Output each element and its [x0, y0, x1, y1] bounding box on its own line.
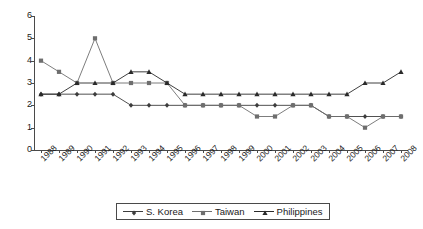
- x-tick-label: 1994: [147, 144, 167, 164]
- legend-item-taiwan[interactable]: Taiwan: [192, 206, 245, 217]
- diamond-marker-icon: [255, 103, 259, 108]
- diamond-marker-icon: [132, 210, 136, 215]
- x-tick-label: 1997: [201, 144, 221, 164]
- series-line: [41, 94, 401, 116]
- diamond-marker-icon: [345, 114, 349, 119]
- triangle-marker-icon: [398, 69, 403, 74]
- diamond-marker-icon: [39, 92, 43, 97]
- triangle-marker-icon: [74, 80, 79, 85]
- diamond-marker-icon: [57, 92, 61, 97]
- square-marker-icon: [199, 209, 207, 217]
- x-tick-label: 2003: [309, 144, 329, 164]
- x-tick-label: 2002: [291, 144, 311, 164]
- square-marker-icon: [255, 114, 259, 118]
- triangle-marker-icon: [146, 69, 151, 74]
- square-marker-icon: [192, 207, 212, 216]
- square-marker-icon: [273, 114, 277, 118]
- x-tick-label: 1988: [39, 144, 59, 164]
- diamond-marker-icon: [291, 103, 295, 108]
- triangle-marker-icon: [261, 209, 269, 217]
- x-tick-label: 2004: [327, 144, 347, 164]
- legend-item-label: S. Korea: [146, 206, 183, 217]
- triangle-marker-icon: [380, 80, 385, 85]
- square-marker-icon: [381, 114, 385, 118]
- diamond-marker-icon: [237, 103, 241, 108]
- square-marker-icon: [309, 103, 313, 107]
- triangle-marker-icon: [362, 80, 367, 85]
- square-marker-icon: [237, 103, 241, 107]
- triangle-marker-icon: [56, 92, 61, 97]
- x-tick-label: 2005: [345, 144, 365, 164]
- square-marker-icon: [111, 81, 115, 85]
- square-marker-icon: [57, 70, 61, 74]
- square-marker-icon: [183, 103, 187, 107]
- diamond-marker-icon: [93, 92, 97, 97]
- square-marker-icon: [399, 114, 403, 118]
- square-marker-icon: [327, 114, 331, 118]
- square-marker-icon: [201, 103, 205, 107]
- diamond-marker-icon: [111, 92, 115, 97]
- series-s-korea: [39, 92, 403, 119]
- square-marker-icon: [165, 81, 169, 85]
- x-tick-label: 2001: [273, 144, 293, 164]
- diamond-marker-icon: [183, 103, 187, 108]
- triangle-marker-icon: [290, 92, 295, 97]
- square-marker-icon: [75, 81, 79, 85]
- diamond-marker-icon: [147, 103, 151, 108]
- square-marker-icon: [147, 81, 151, 85]
- triangle-marker-icon: [92, 80, 97, 85]
- diamond-marker-icon: [399, 114, 403, 119]
- diamond-marker-icon: [75, 92, 79, 97]
- x-tick-label: 2000: [255, 144, 275, 164]
- x-tick-label: 1991: [93, 144, 113, 164]
- x-tick-label: 1999: [237, 144, 257, 164]
- series-line: [41, 72, 401, 94]
- x-tick-label: 2007: [381, 144, 401, 164]
- series-plot: [0, 0, 423, 229]
- diamond-marker-icon: [130, 209, 138, 217]
- triangle-marker-icon: [128, 69, 133, 74]
- diamond-marker-icon: [165, 103, 169, 108]
- triangle-marker-icon: [272, 92, 277, 97]
- line-chart: 0123456 19881989199019911992199319941995…: [0, 0, 423, 229]
- series-philippines: [38, 69, 403, 96]
- chart-legend: S. KoreaTaiwanPhilippines: [116, 203, 330, 220]
- triangle-marker-icon: [182, 92, 187, 97]
- series-line: [41, 38, 401, 127]
- square-marker-icon: [129, 81, 133, 85]
- x-tick-label: 1993: [129, 144, 149, 164]
- diamond-marker-icon: [201, 103, 205, 108]
- triangle-marker-icon: [344, 92, 349, 97]
- triangle-marker-icon: [164, 80, 169, 85]
- x-tick-label: 1995: [165, 144, 185, 164]
- triangle-marker-icon: [110, 80, 115, 85]
- legend-item-s-korea[interactable]: S. Korea: [123, 206, 183, 217]
- diamond-marker-icon: [273, 103, 277, 108]
- diamond-marker-icon: [219, 103, 223, 108]
- triangle-marker-icon: [308, 92, 313, 97]
- triangle-marker-icon: [326, 92, 331, 97]
- diamond-marker-icon: [363, 114, 367, 119]
- square-marker-icon: [201, 210, 205, 214]
- triangle-marker-icon: [38, 92, 43, 97]
- x-tick-label: 1998: [219, 144, 239, 164]
- square-marker-icon: [363, 126, 367, 130]
- triangle-marker-icon: [218, 92, 223, 97]
- x-tick-label: 2008: [399, 144, 419, 164]
- triangle-marker-icon: [262, 210, 267, 215]
- legend-item-label: Philippines: [277, 206, 323, 217]
- legend-item-philippines[interactable]: Philippines: [254, 206, 323, 217]
- series-taiwan: [39, 36, 403, 130]
- triangle-marker-icon: [200, 92, 205, 97]
- triangle-marker-icon: [254, 92, 259, 97]
- square-marker-icon: [345, 114, 349, 118]
- x-tick-label: 1996: [183, 144, 203, 164]
- x-tick-label: 1992: [111, 144, 131, 164]
- square-marker-icon: [291, 103, 295, 107]
- x-tick-label: 1990: [75, 144, 95, 164]
- diamond-marker-icon: [129, 103, 133, 108]
- square-marker-icon: [93, 36, 97, 40]
- diamond-marker-icon: [381, 114, 385, 119]
- triangle-marker-icon: [236, 92, 241, 97]
- diamond-marker-icon: [327, 114, 331, 119]
